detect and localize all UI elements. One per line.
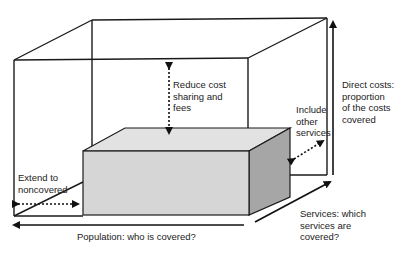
label-line: sharing and	[173, 91, 226, 103]
label-line: other	[296, 116, 331, 128]
inner-box	[83, 128, 290, 215]
label-line: Extend to	[18, 172, 68, 184]
include-other-arrow	[294, 141, 323, 159]
include-other-label: Include other services	[296, 104, 331, 139]
label-line: services	[296, 127, 331, 139]
extend-label: Extend to noncovered	[18, 172, 68, 195]
label-line: noncovered	[18, 184, 68, 196]
label-line: covered	[342, 114, 394, 126]
reduce-cost-label: Reduce cost sharing and fees	[173, 79, 226, 114]
label-line: Reduce cost	[173, 79, 226, 91]
services-label: Services: which services are covered?	[300, 208, 366, 243]
population-label: Population: who is covered?	[77, 231, 196, 243]
label-line: of the costs	[342, 102, 394, 114]
label-line: fees	[173, 102, 226, 114]
label-line: Include	[296, 104, 331, 116]
label-line: Services: which	[300, 208, 366, 220]
label-line: services are	[300, 220, 366, 232]
label-line: proportion	[342, 91, 394, 103]
label-line: Direct costs:	[342, 79, 394, 91]
label-line: covered?	[300, 231, 366, 243]
direct-costs-label: Direct costs: proportion of the costs co…	[342, 79, 394, 125]
